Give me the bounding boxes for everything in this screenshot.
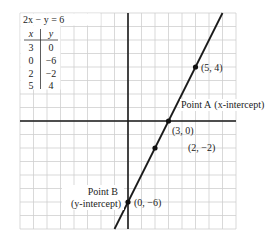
table-cell-x: 0 [29,55,34,66]
point-dot [166,118,171,123]
table-cell-x: 5 [29,80,34,91]
table-cell-y: −2 [46,68,57,79]
table-cell-y: −6 [46,55,57,66]
point-dot [125,199,130,204]
table-cell-y: 4 [49,80,54,91]
annotation-point-b: Point B (y-intercept) [62,185,124,210]
point-dot [193,64,198,69]
table-cell-y: 0 [49,42,54,53]
annotation-point-a: Point A(x-intercept) [180,99,277,111]
annotation-a-text: Point A(x-intercept) [181,99,264,111]
point-label-3-0: (3, 0) [172,125,194,137]
table-cell-x: 2 [29,68,34,79]
annotation-a-point: Point A [181,99,212,110]
point-label-5-4: (5, 4) [201,62,223,74]
table-cell-x: 3 [29,42,34,53]
point-label-2-neg2: (2, −2) [188,142,215,154]
point-dot [152,145,157,150]
points-layer: (5, 4) (3, 0) (2, −2) (0, −6) [125,62,222,209]
coordinate-graph: 2x − y = 6 x y 3 0 0 −6 2 −2 5 4 (5, 4) … [0,0,279,240]
point-label-0-neg6: (0, −6) [134,197,161,209]
annotation-a-desc: (x-intercept) [214,99,264,111]
table-header-y: y [48,28,54,39]
annotation-b-desc: (y-intercept) [71,198,121,210]
annotation-b-name: Point B [88,186,119,197]
equation-label: 2x − y = 6 [23,14,64,25]
table-header-x: x [28,28,34,39]
value-table: 2x − y = 6 x y 3 0 0 −6 2 −2 5 4 [21,14,101,92]
